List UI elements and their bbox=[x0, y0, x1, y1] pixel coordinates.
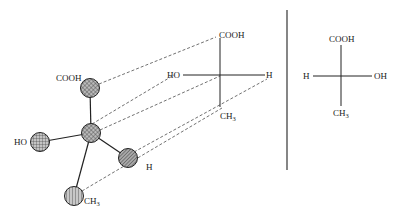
model-label-ho: HO bbox=[14, 137, 27, 147]
fischer-left-left: HO bbox=[167, 70, 180, 80]
sphere-h bbox=[119, 149, 138, 168]
fischer-projection-right: COOH H OH CH3 bbox=[303, 34, 387, 119]
model-label-cooh: COOH bbox=[56, 73, 82, 83]
fischer-right-right: OH bbox=[374, 71, 387, 81]
sphere-carbon-center bbox=[82, 124, 101, 143]
fischer-right-bottom: CH3 bbox=[333, 108, 349, 119]
fischer-right-left: H bbox=[303, 71, 310, 81]
projection-line-ho bbox=[92, 75, 174, 124]
model-bonds bbox=[40, 88, 128, 196]
model-label-ch3: CH3 bbox=[84, 196, 100, 207]
fischer-left-bottom: CH3 bbox=[220, 111, 236, 122]
model-label-h: H bbox=[146, 162, 153, 172]
sphere-ho bbox=[31, 133, 50, 152]
fischer-projection-left: COOH HO H CH3 bbox=[167, 30, 273, 122]
fischer-left-top: COOH bbox=[219, 30, 245, 40]
sphere-cooh bbox=[81, 79, 100, 98]
projection-line-cooh bbox=[99, 37, 216, 84]
fischer-right-top: COOH bbox=[329, 34, 355, 44]
projection-line-ch3 bbox=[82, 108, 222, 191]
stereochemistry-diagram: COOH HO H CH3 COOH HO H CH3 COOH H OH CH… bbox=[0, 0, 399, 222]
projection-line-h bbox=[134, 79, 267, 152]
sphere-ch3 bbox=[65, 187, 84, 206]
fischer-left-right: H bbox=[266, 70, 273, 80]
projection-line-center bbox=[100, 76, 220, 130]
projection-lines bbox=[82, 37, 267, 191]
